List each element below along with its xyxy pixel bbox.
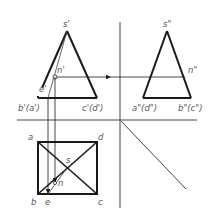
label-n-dprime: n" <box>188 65 197 75</box>
label-d: d <box>98 132 104 142</box>
label-b-prime-a-prime: b'(a') <box>18 103 40 113</box>
top-view <box>38 142 97 194</box>
projection-diagram: s' n' e' b'(a') c'(d') s" n" a"(d") b"(c… <box>0 0 216 219</box>
label-n-prime: n' <box>57 65 65 75</box>
label-s: s <box>66 155 71 165</box>
label-n: n <box>58 178 63 188</box>
label-c: c <box>98 197 103 207</box>
label-c-prime-d-prime: c'(d') <box>82 103 103 113</box>
label-s-prime: s' <box>63 19 70 29</box>
label-a: a <box>28 132 33 142</box>
label-b-dprime-c-dprime: b"(c") <box>178 103 203 113</box>
label-a-dprime-d-dprime: a"(d") <box>132 103 157 113</box>
front-view <box>38 31 185 193</box>
side-view <box>143 31 191 98</box>
label-s-dprime: s" <box>163 19 171 29</box>
label-e-prime: e' <box>39 84 47 94</box>
label-b: b <box>31 197 36 207</box>
label-e: e <box>45 197 50 207</box>
miter-45-line <box>121 121 186 189</box>
